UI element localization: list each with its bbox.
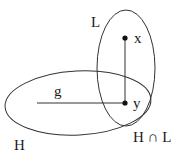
diagram-canvas: L x g y H H ∩ L xyxy=(0,0,178,162)
label-g: g xyxy=(54,83,62,99)
point-y xyxy=(122,100,127,105)
label-L: L xyxy=(91,14,100,30)
point-x xyxy=(122,35,127,40)
label-intersection: H ∩ L xyxy=(133,129,171,145)
label-y: y xyxy=(133,95,141,111)
set-L-ellipse xyxy=(97,10,155,126)
label-H: H xyxy=(14,137,25,153)
label-x: x xyxy=(134,30,142,46)
